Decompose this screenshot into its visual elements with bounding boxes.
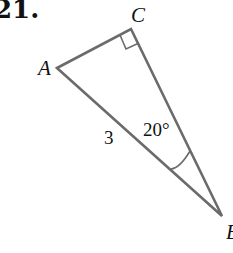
vertex-label-a: A xyxy=(38,58,51,79)
triangle-diagram xyxy=(0,0,233,253)
figure: 21. A C B 3 20° xyxy=(0,0,233,253)
side-label-ab: 3 xyxy=(104,128,114,147)
angle-arc-b xyxy=(171,151,190,169)
triangle-abc xyxy=(57,29,222,216)
vertex-label-c: C xyxy=(131,5,145,26)
angle-label-b: 20° xyxy=(143,120,170,139)
vertex-label-b: B xyxy=(226,222,233,243)
